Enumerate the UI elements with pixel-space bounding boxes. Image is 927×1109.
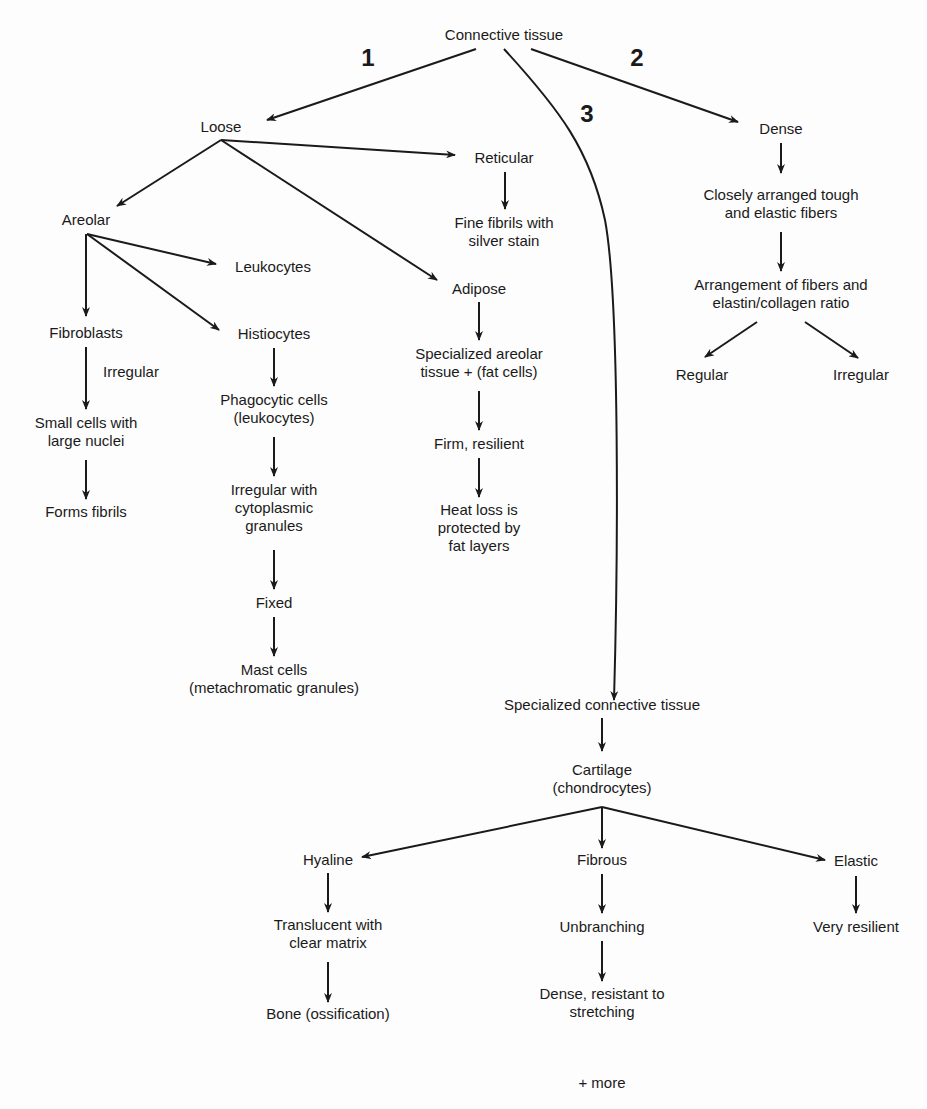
branch-number-2: 2 [630, 44, 643, 72]
node-line: Irregular with [231, 481, 318, 499]
node-arrangement-of-fibers: Arrangement of fibers and elastin/collag… [694, 276, 867, 312]
node-line: cytoplasmic [231, 499, 318, 517]
node-line: Dense, resistant to [539, 985, 664, 1003]
node-translucent: Translucent with clear matrix [274, 916, 383, 952]
node-dense: Dense [759, 120, 802, 138]
node-line: Heat loss is [438, 501, 521, 519]
node-phagocytic-cells: Phagocytic cells (leukocytes) [220, 391, 328, 427]
node-adipose: Adipose [452, 280, 506, 298]
branch-number-1: 1 [361, 44, 374, 72]
node-dense-irregular: Irregular [833, 366, 889, 384]
node-line: tissue + (fat cells) [415, 363, 543, 381]
more-label: + more [578, 1074, 625, 1092]
node-line: (leukocytes) [220, 409, 328, 427]
node-line: and elastic fibers [703, 204, 858, 222]
node-fixed: Fixed [256, 594, 293, 612]
node-reticular: Reticular [474, 149, 533, 167]
node-forms-fibrils: Forms fibrils [45, 503, 127, 521]
node-line: Arrangement of fibers and [694, 276, 867, 294]
node-line: clear matrix [274, 934, 383, 952]
node-line: stretching [539, 1003, 664, 1021]
node-fine-fibrils: Fine fibrils with silver stain [454, 214, 553, 250]
node-line: Cartilage [552, 761, 651, 779]
node-line: fat layers [438, 537, 521, 555]
node-histiocytes: Histiocytes [238, 325, 311, 343]
node-line: Specialized areolar [415, 345, 543, 363]
node-dense-resistant: Dense, resistant to stretching [539, 985, 664, 1021]
node-fibrous: Fibrous [577, 851, 627, 869]
node-line: Translucent with [274, 916, 383, 934]
node-specialized-connective-tissue: Specialized connective tissue [504, 696, 700, 714]
node-elastic: Elastic [834, 852, 878, 870]
node-areolar: Areolar [62, 211, 110, 229]
node-fibroblasts: Fibroblasts [49, 324, 122, 342]
node-line: elastin/collagen ratio [694, 294, 867, 312]
node-line: Phagocytic cells [220, 391, 328, 409]
node-mast-cells: Mast cells (metachromatic granules) [189, 661, 359, 697]
node-line: Closely arranged tough [703, 186, 858, 204]
node-closely-arranged: Closely arranged tough and elastic fiber… [703, 186, 858, 222]
node-irregular-granules: Irregular with cytoplasmic granules [231, 481, 318, 535]
node-regular: Regular [676, 366, 729, 384]
node-unbranching: Unbranching [559, 918, 644, 936]
node-line: Fine fibrils with [454, 214, 553, 232]
node-very-resilient: Very resilient [813, 918, 899, 936]
node-heat-loss: Heat loss is protected by fat layers [438, 501, 521, 555]
node-specialized-areolar: Specialized areolar tissue + (fat cells) [415, 345, 543, 381]
node-line: Mast cells [189, 661, 359, 679]
node-line: protected by [438, 519, 521, 537]
node-line: granules [231, 517, 318, 535]
node-loose: Loose [201, 118, 242, 136]
node-hyaline: Hyaline [303, 851, 353, 869]
node-firm-resilient: Firm, resilient [434, 435, 524, 453]
node-line: silver stain [454, 232, 553, 250]
node-line: (metachromatic granules) [189, 679, 359, 697]
node-leukocytes: Leukocytes [235, 258, 311, 276]
node-small-cells: Small cells with large nuclei [35, 414, 138, 450]
node-bone: Bone (ossification) [266, 1005, 389, 1023]
branch-number-3: 3 [580, 100, 593, 128]
edge-label-irregular: Irregular [103, 363, 159, 381]
node-connective-tissue: Connective tissue [445, 26, 563, 44]
node-cartilage: Cartilage (chondrocytes) [552, 761, 651, 797]
node-line: large nuclei [35, 432, 138, 450]
node-line: Small cells with [35, 414, 138, 432]
node-line: (chondrocytes) [552, 779, 651, 797]
